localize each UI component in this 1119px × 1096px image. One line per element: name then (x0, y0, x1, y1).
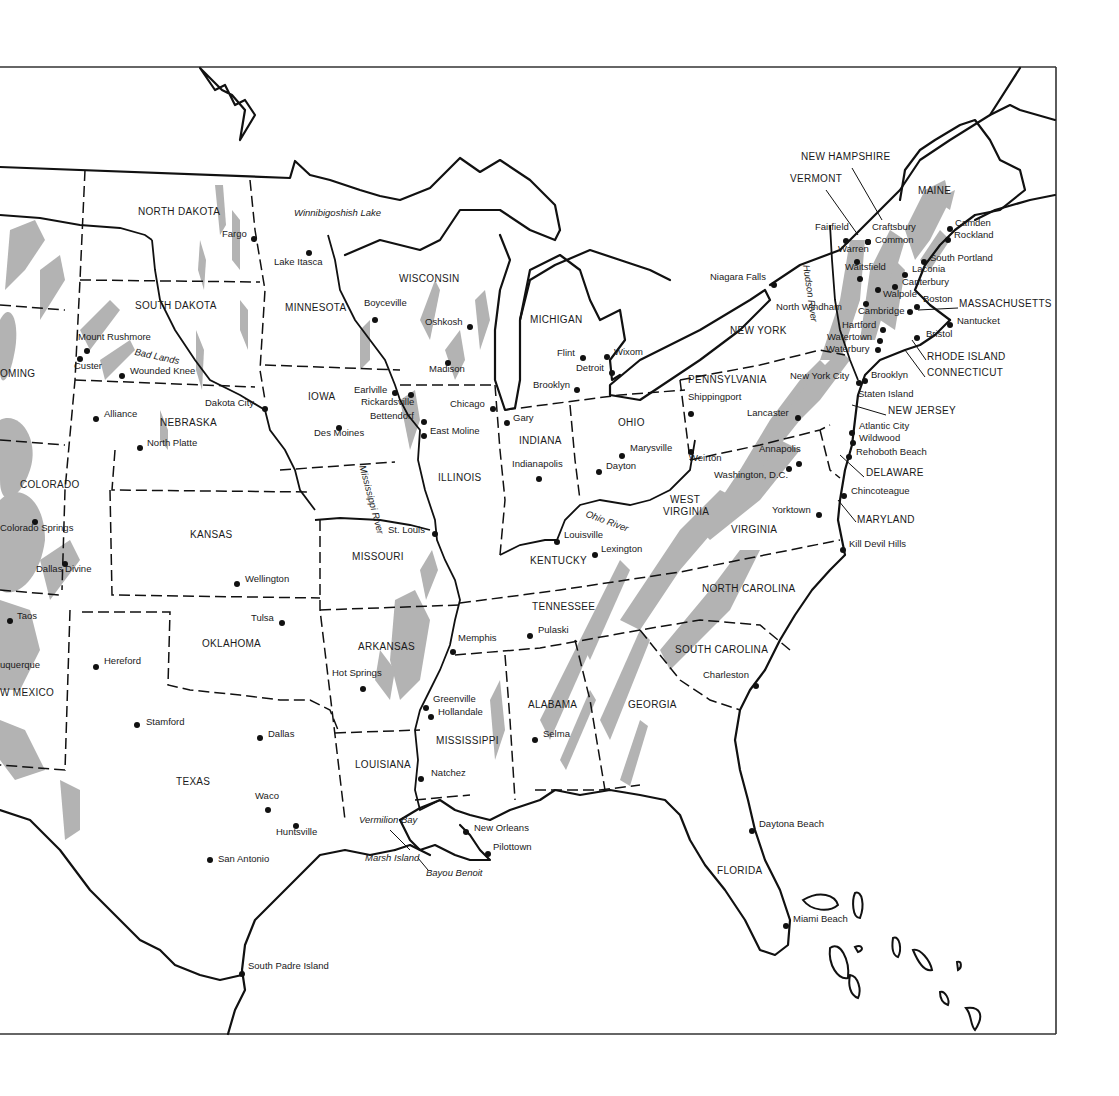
map-frame (0, 67, 1056, 1034)
coastlines (0, 68, 1055, 1034)
islands (803, 893, 980, 1030)
us-map (0, 0, 1119, 1096)
mountain-shading (0, 180, 955, 840)
